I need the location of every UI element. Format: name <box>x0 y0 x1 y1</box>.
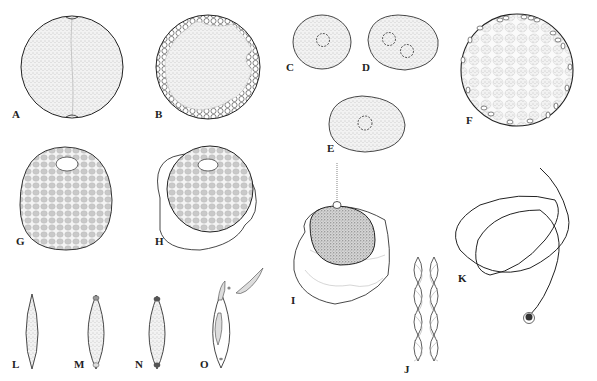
label-g: G <box>16 236 25 247</box>
label-k: K <box>458 273 467 284</box>
panel-k <box>456 168 569 324</box>
panel-l <box>26 294 38 369</box>
label-b: B <box>155 109 162 120</box>
illustration-plate <box>0 0 597 381</box>
panel-f <box>461 14 573 126</box>
label-j: J <box>404 364 410 375</box>
panel-i <box>294 163 390 304</box>
label-n: N <box>135 359 143 370</box>
panel-j <box>414 257 438 361</box>
label-c: C <box>286 62 294 73</box>
label-f: F <box>466 115 473 126</box>
panel-b <box>156 15 260 119</box>
panel-g <box>20 147 112 250</box>
panel-a <box>21 16 123 118</box>
panel-e <box>329 96 405 152</box>
panel-n <box>149 296 165 369</box>
label-o: O <box>200 359 209 370</box>
panel-c <box>293 15 351 69</box>
label-a: A <box>12 109 20 120</box>
panel-o <box>213 268 263 368</box>
panel-m <box>88 295 104 369</box>
panel-d <box>368 15 438 70</box>
label-h: H <box>155 236 164 247</box>
label-d: D <box>362 62 370 73</box>
panel-h <box>158 146 257 250</box>
label-e: E <box>327 143 334 154</box>
label-l: L <box>12 359 19 370</box>
label-m: M <box>74 359 84 370</box>
label-i: I <box>291 295 295 306</box>
